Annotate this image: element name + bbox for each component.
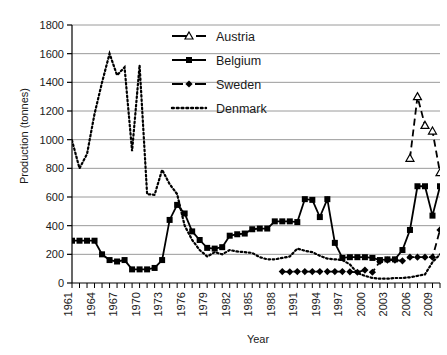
marker-square [92,238,98,244]
marker-triangle [406,154,414,161]
marker-square [99,251,105,257]
marker-diamond [294,268,301,275]
marker-triangle [428,127,436,134]
marker-square [189,228,195,234]
marker-diamond [399,257,406,264]
marker-square [407,227,413,233]
marker-square [144,266,150,272]
series-austria [406,93,444,176]
marker-triangle [436,169,444,176]
marker-square [437,183,443,189]
x-tick-label: 2003 [377,292,389,316]
y-tick-label: 200 [46,248,64,260]
x-tick-label: 1964 [85,292,97,316]
marker-square [422,183,428,189]
marker-square [317,214,323,220]
marker-square [332,240,338,246]
marker-diamond [339,268,346,275]
marker-square [272,218,278,224]
marker-triangle [421,121,429,128]
marker-diamond [286,268,293,275]
y-axis-title: Production (tonnes) [18,66,30,206]
marker-diamond [316,268,323,275]
marker-square [114,259,120,265]
y-tick-label: 1800 [40,19,64,31]
marker-square [362,254,368,260]
marker-diamond [309,268,316,275]
marker-square [242,231,248,237]
x-tick-label: 1976 [175,292,187,316]
marker-diamond [436,226,443,233]
marker-square [152,265,158,271]
marker-square [129,266,135,272]
marker-square [324,196,330,202]
marker-square [354,254,360,260]
y-tick-label: 0 [58,277,64,289]
chart-legend: AustriaBelgiumSwedenDenmark [172,30,267,116]
marker-diamond [279,268,286,275]
y-tick-label: 1000 [40,134,64,146]
marker-square [429,213,435,219]
marker-square [234,231,240,237]
marker-square [287,218,293,224]
x-tick-label: 2000 [355,292,367,316]
x-tick-label: 1994 [310,292,322,316]
marker-square [204,245,210,251]
legend-label: Denmark [216,102,267,116]
marker-square [159,257,165,263]
legend-label: Austria [216,30,255,44]
marker-diamond [361,267,368,274]
y-tick-label: 400 [46,220,64,232]
marker-diamond [301,268,308,275]
marker-square [212,246,218,252]
marker-square [186,57,192,63]
line-chart: 0200400600800100012001400160018001961196… [0,0,447,355]
x-tick-label: 2009 [422,292,434,316]
marker-square [294,219,300,225]
marker-square [249,226,255,232]
y-tick-label: 1200 [40,105,64,117]
y-tick-label: 600 [46,191,64,203]
chart-container: 0200400600800100012001400160018001961196… [0,0,447,355]
legend-label: Belgium [216,54,261,68]
marker-square [302,196,308,202]
marker-diamond [346,268,353,275]
x-tick-label: 1985 [242,292,254,316]
x-tick-label: 1988 [265,292,277,316]
marker-square [227,233,233,239]
marker-square [369,255,375,261]
marker-square [264,226,270,232]
marker-square [167,217,173,223]
marker-square [69,238,75,244]
marker-square [84,238,90,244]
x-tick-label: 1991 [287,292,299,316]
marker-square [77,238,83,244]
x-axis-title: Year [72,333,444,345]
x-tick-label: 1961 [62,292,74,316]
x-tick-label: 1997 [332,292,344,316]
marker-square [347,254,353,260]
marker-diamond [324,268,331,275]
marker-square [279,218,285,224]
marker-square [399,247,405,253]
marker-square [137,266,143,272]
y-tick-label: 800 [46,162,64,174]
x-tick-label: 1982 [220,292,232,316]
marker-square [257,226,263,232]
x-tick-label: 1970 [130,292,142,316]
marker-triangle [413,93,421,100]
marker-square [197,237,203,243]
marker-diamond [331,268,338,275]
legend-label: Sweden [216,78,261,92]
x-tick-label: 1973 [152,292,164,316]
marker-square [414,183,420,189]
y-tick-label: 1400 [40,76,64,88]
marker-square [122,257,128,263]
marker-square [219,244,225,250]
marker-square [107,257,113,263]
x-tick-label: 1967 [107,292,119,316]
marker-diamond [185,80,192,87]
marker-square [309,197,315,203]
y-tick-label: 1600 [40,48,64,60]
x-tick-label: 1979 [197,292,209,316]
